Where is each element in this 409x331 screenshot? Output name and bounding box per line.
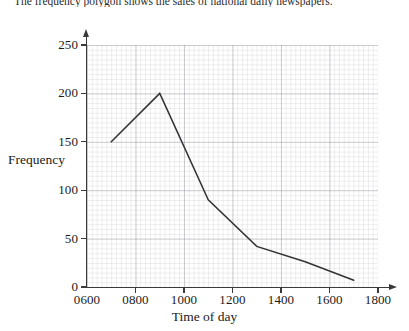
y-axis-arrow-icon: [83, 29, 89, 37]
chart-figure: The frequency polygon shows the sales of…: [0, 0, 409, 331]
x-tick-label: 1000: [171, 292, 197, 308]
y-axis-line: [86, 36, 87, 288]
x-axis-line: [86, 287, 391, 288]
x-tick-label: 1800: [365, 292, 391, 308]
frequency-polygon-line: [87, 45, 378, 287]
x-tick-label: 0600: [74, 292, 100, 308]
y-axis-title: Frequency: [8, 152, 65, 168]
x-axis-arrow-icon: [389, 284, 397, 290]
x-tick-label: 0800: [122, 292, 148, 308]
x-axis-title: Time of day: [0, 309, 409, 325]
y-tick-label: 200: [58, 85, 78, 101]
x-tick-label: 1200: [219, 292, 245, 308]
y-tick-label: 250: [58, 37, 78, 53]
y-tick-label: 150: [58, 134, 78, 150]
plot-area: [87, 45, 378, 287]
y-tick-label: 50: [65, 231, 78, 247]
x-tick-label: 1400: [268, 292, 294, 308]
x-tick-label: 1600: [316, 292, 342, 308]
y-tick-label: 100: [58, 182, 78, 198]
figure-caption: The frequency polygon shows the sales of…: [14, 0, 409, 7]
